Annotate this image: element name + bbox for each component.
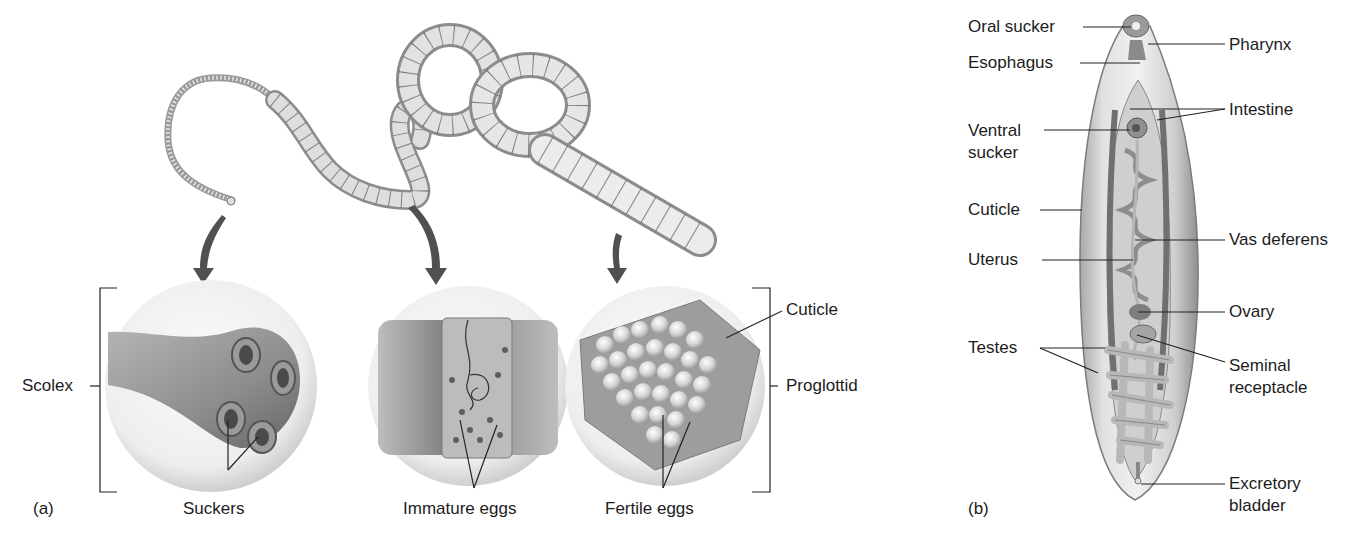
label-proglottid: Proglottid <box>786 376 858 396</box>
illustration-layer <box>0 0 1361 536</box>
arrows <box>193 205 627 285</box>
panel-label-b: (b) <box>968 499 989 519</box>
label-scolex: Scolex <box>22 376 73 396</box>
label-excretory-bladder-line2: bladder <box>1229 496 1286 516</box>
label-seminal-receptacle-line1: Seminal <box>1229 356 1290 376</box>
label-ventral-sucker-line1: Ventral <box>968 121 1021 141</box>
label-immature-eggs: Immature eggs <box>403 499 516 519</box>
label-esophagus: Esophagus <box>968 53 1053 73</box>
label-seminal-receptacle-line2: receptacle <box>1229 378 1307 398</box>
label-pharynx: Pharynx <box>1229 35 1291 55</box>
label-suckers: Suckers <box>183 499 244 519</box>
label-excretory-bladder-line1: Excretory <box>1229 474 1301 494</box>
fluke-body <box>1080 15 1198 500</box>
panel-label-a: (a) <box>33 499 54 519</box>
label-cuticle-a: Cuticle <box>786 300 838 320</box>
label-oral-sucker: Oral sucker <box>968 17 1055 37</box>
label-intestine: Intestine <box>1229 100 1293 120</box>
label-cuticle-b: Cuticle <box>968 200 1020 220</box>
label-ovary: Ovary <box>1229 302 1274 322</box>
scolex-bubble <box>105 280 317 492</box>
label-testes: Testes <box>968 338 1017 358</box>
figure-canvas: Scolex Suckers Immature eggs Fertile egg… <box>0 0 1361 536</box>
mature-proglottid-bubble <box>565 286 765 486</box>
label-uterus: Uterus <box>968 250 1018 270</box>
tapeworm-strobila <box>168 35 700 240</box>
label-vas-deferens: Vas deferens <box>1229 230 1328 250</box>
label-ventral-sucker-line2: sucker <box>968 143 1018 163</box>
label-fertile-eggs: Fertile eggs <box>605 499 694 519</box>
